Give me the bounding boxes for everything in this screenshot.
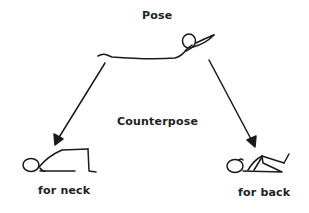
pose-figure	[98, 34, 214, 59]
neck-counterpose-figure	[23, 149, 96, 172]
counterpose-label: Counterpose	[117, 115, 198, 128]
back-counterpose-label: for back	[238, 186, 290, 199]
back-counterpose-figure	[227, 154, 289, 173]
neck-counterpose-label: for neck	[38, 184, 90, 197]
arrow-to-neck-icon	[54, 63, 105, 145]
diagram-artwork	[0, 0, 309, 213]
pose-title: Pose	[142, 9, 172, 22]
arrow-to-back-icon	[209, 60, 256, 147]
pose-counterpose-diagram: Pose Counterpose for neck for back	[0, 0, 309, 213]
